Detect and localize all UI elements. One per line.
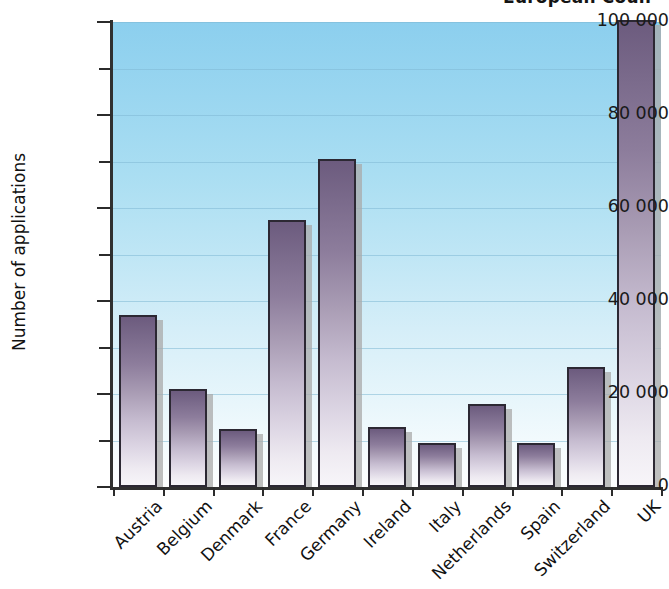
y-axis-tick-minor [99, 440, 111, 442]
y-axis-tick-label: 60 000 [573, 196, 669, 216]
x-axis-tick-label: UK [633, 496, 664, 527]
y-axis-tick-label: 100 000 [573, 10, 669, 30]
y-axis-title: Number of applications [9, 117, 29, 387]
x-axis-tick [113, 487, 115, 496]
x-axis-tick [213, 487, 215, 496]
chart-title: European Coun [0, 0, 669, 7]
chart-figure: European Coun Number of applications 020… [0, 0, 669, 589]
y-axis-tick-minor [99, 254, 111, 256]
y-axis-tick-label: 0 [573, 475, 669, 495]
x-axis-tick [661, 487, 663, 496]
bar[interactable] [268, 220, 306, 487]
y-axis-tick-label: 40 000 [573, 289, 669, 309]
x-axis-tick-label: Ireland [359, 496, 415, 552]
x-axis-tick [512, 487, 514, 496]
gridline [113, 255, 661, 256]
bar[interactable] [517, 443, 555, 487]
y-axis-tick-minor [99, 347, 111, 349]
y-axis-tick-major [97, 393, 111, 395]
gridline [113, 348, 661, 349]
x-axis-tick-label: Italy [425, 496, 465, 536]
x-axis-tick [262, 487, 264, 496]
x-axis-tick [462, 487, 464, 496]
x-axis-tick [412, 487, 414, 496]
y-axis-tick-major [97, 486, 111, 488]
bar[interactable] [468, 404, 506, 487]
y-axis-tick-minor [99, 161, 111, 163]
y-axis-tick-major [97, 114, 111, 116]
x-axis-tick [611, 487, 613, 496]
y-axis-tick-label: 80 000 [573, 103, 669, 123]
x-axis-tick [561, 487, 563, 496]
bar[interactable] [617, 20, 655, 487]
y-axis-tick-major [97, 207, 111, 209]
y-axis-tick-major [97, 300, 111, 302]
x-axis-tick [312, 487, 314, 496]
bar[interactable] [119, 315, 157, 487]
x-axis-tick-label: Spain [517, 496, 565, 544]
plot-area [113, 22, 661, 487]
gridline [113, 69, 661, 70]
bar[interactable] [219, 429, 257, 487]
bar[interactable] [368, 427, 406, 487]
x-axis-tick [163, 487, 165, 496]
y-axis-tick-minor [99, 68, 111, 70]
x-axis-tick [362, 487, 364, 496]
bar[interactable] [169, 389, 207, 487]
y-axis-tick-major [97, 21, 111, 23]
y-axis-tick-label: 20 000 [573, 382, 669, 402]
bar[interactable] [318, 159, 356, 487]
gridline [113, 162, 661, 163]
bar[interactable] [418, 443, 456, 487]
